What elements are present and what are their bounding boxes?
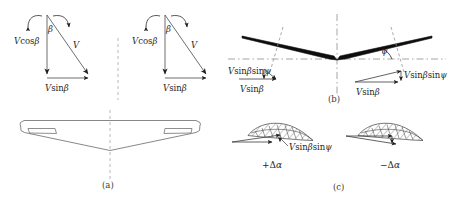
aerodynamics-figure: Vcosβ V β Vsinβ Vcosβ V β Vsinβ ψ Vsinβs…: [0, 0, 460, 204]
label-right-v: V: [191, 40, 197, 50]
panel-c-airfoil-right: [346, 123, 423, 144]
label-left-beta: β: [48, 24, 53, 34]
caption-panel-c: (c): [333, 182, 344, 192]
label-b-left-vsinbetasinpsi: Vsinβsinψ: [228, 66, 271, 76]
label-right-beta: β: [166, 24, 171, 34]
label-b-right-vsinbetasinpsi: Vsinβsinψ: [404, 70, 447, 80]
label-b-left-vsinbeta: Vsinβ: [240, 84, 264, 94]
label-dihedral-psi: ψ: [381, 46, 388, 56]
label-c-left-delta-alpha: +Δα: [262, 160, 282, 170]
figure-canvas: [0, 0, 460, 204]
label-b-right-vsinbeta: Vsinβ: [356, 87, 380, 97]
panel-a-wing-planform: [20, 110, 201, 180]
label-c-left-vsinbetasinpsi: Vsinβsinψ: [289, 142, 332, 152]
label-right-vcosbeta: Vcosβ: [132, 36, 157, 46]
label-left-vcosbeta: Vcosβ: [14, 36, 39, 46]
label-left-vsinbeta: Vsinβ: [45, 83, 69, 93]
caption-panel-a: (a): [102, 180, 114, 190]
label-left-v: V: [73, 40, 79, 50]
label-right-vsinbeta: Vsinβ: [163, 83, 187, 93]
label-c-right-delta-alpha: −Δα: [380, 160, 400, 170]
caption-panel-b: (b): [328, 94, 340, 104]
